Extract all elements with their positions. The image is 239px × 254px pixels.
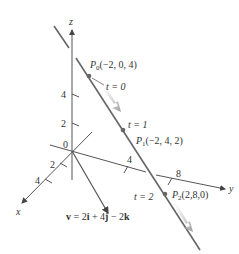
y-tick-label-4: 4 xyxy=(127,154,132,165)
x-axis: 2 4 x xyxy=(15,132,92,217)
y-tick-label-8: 8 xyxy=(176,168,181,179)
x-tick-4 xyxy=(45,179,52,183)
z-tick-4 xyxy=(72,94,79,97)
origin-label: 0 xyxy=(63,139,68,150)
p2-param: t = 2 xyxy=(134,191,154,202)
x-tick-label-4: 4 xyxy=(35,175,40,186)
line-diagram: z 4 2 2 4 x 4 8 y 0 P0(−2, 0, xyxy=(0,0,239,254)
z-axis-label: z xyxy=(68,16,73,27)
y-tick-4 xyxy=(124,166,128,173)
x-axis-label: x xyxy=(15,206,21,217)
y-tick-8 xyxy=(168,178,172,185)
z-tick-label-2: 2 xyxy=(61,118,66,129)
x-tick-label-2: 2 xyxy=(50,159,55,170)
vector-label: v = 2i + 4j − 2k xyxy=(66,211,130,222)
point-p1: t = 1 P1(−2, 4, 2) xyxy=(121,119,183,148)
svg-text:P0(−2, 0, 4): P0(−2, 0, 4) xyxy=(89,59,137,72)
y-axis: 4 8 y xyxy=(50,145,234,194)
point-p2-dot xyxy=(163,192,168,197)
svg-text:t = 0: t = 0 xyxy=(106,81,126,92)
svg-text:P2(2,8,0): P2(2,8,0) xyxy=(171,189,208,202)
z-tick-2 xyxy=(72,123,79,126)
x-tick-2 xyxy=(60,163,67,167)
p1-param: t = 1 xyxy=(128,119,148,130)
point-p0-dot xyxy=(87,74,92,79)
y-axis-label: y xyxy=(228,183,234,194)
point-p1-dot xyxy=(121,128,126,133)
svg-text:P1(−2, 4, 2): P1(−2, 4, 2) xyxy=(135,135,183,148)
p0-param: t = 0 xyxy=(106,81,126,92)
z-tick-label-4: 4 xyxy=(61,89,66,100)
